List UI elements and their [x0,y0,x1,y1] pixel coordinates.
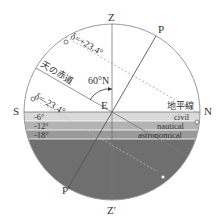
label-south-pole: P′ [62,184,71,196]
sun-marker-north [195,120,199,124]
label-astronomical: astronomical [138,130,183,140]
label-south: S [13,105,19,117]
label-declination-plus: δ=+23.4° [69,31,105,58]
label-zenith: Z [108,11,115,23]
label-celestial-equator: 天の赤道 [39,58,76,86]
label-nadir: Z′ [107,204,116,216]
label-east: E [101,99,108,111]
label-north-pole: P [158,23,164,35]
sun-marker-summer [64,40,68,44]
label-latitude: 60°N [88,75,109,86]
celestial-sphere-diagram: Z Z′ P P′ S N E 60°N δ=+23.4° δ=-23.4° 天… [0,0,223,220]
arrow-icon [108,87,112,91]
label-astronomical-angle: -18° [34,130,49,140]
label-horizon: 地平線 [167,100,194,111]
label-north: N [204,105,212,117]
sun-marker-lower [161,175,165,179]
